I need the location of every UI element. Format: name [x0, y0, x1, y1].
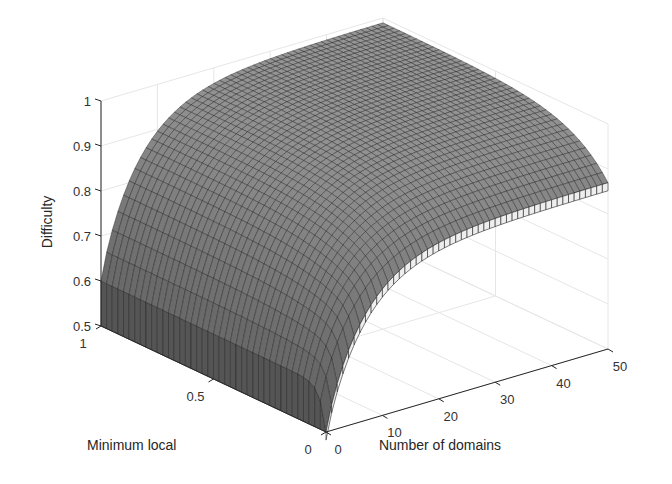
x-tick-label: 40: [556, 376, 570, 391]
surface-plot: [101, 23, 608, 440]
x-tick-label: 50: [613, 359, 627, 374]
x-tick-label: 0: [334, 442, 341, 457]
z-tick-label: 0.6: [73, 274, 91, 289]
z-axis-label: Difficulty: [39, 196, 55, 249]
y-tick-label: 0: [304, 442, 311, 457]
y-axis-label: Minimum local: [87, 437, 176, 453]
x-axis-label: Number of domains: [379, 437, 501, 453]
z-tick-label: 0.5: [73, 319, 91, 334]
z-tick-label: 1: [84, 94, 91, 109]
x-tick-label: 20: [444, 409, 458, 424]
z-tick-label: 0.7: [73, 229, 91, 244]
y-tick-label: 0.5: [186, 389, 204, 404]
y-tick-label: 1: [79, 336, 86, 351]
z-tick-label: 0.8: [73, 184, 91, 199]
surface-chart: 0102030405000.510.50.60.70.80.91 Difficu…: [0, 0, 672, 484]
x-tick-label: 30: [500, 392, 514, 407]
z-tick-label: 0.9: [73, 139, 91, 154]
